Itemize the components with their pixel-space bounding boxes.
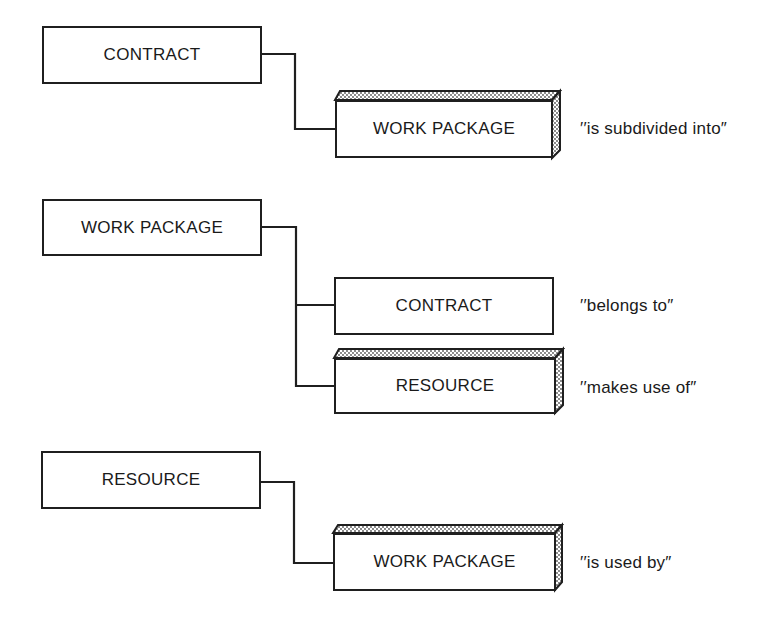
connector-contract-to-workpackage (262, 54, 335, 129)
entity-label: WORK PACKAGE (81, 218, 223, 238)
entity-box-work-package-child-2: WORK PACKAGE (333, 533, 556, 591)
relation-label-subdivided: ′′is subdivided into″ (580, 119, 727, 139)
entity-box-work-package-child: WORK PACKAGE (335, 100, 553, 158)
entity-label: CONTRACT (396, 296, 493, 316)
relation-label-makes-use-of: ′′makes use of″ (580, 378, 697, 398)
entity-label: RESOURCE (396, 376, 495, 396)
entity-label: CONTRACT (104, 45, 201, 65)
entity-box-work-package: WORK PACKAGE (42, 199, 262, 256)
relation-label-belongs-to: ′′belongs to″ (580, 296, 673, 316)
connector-workpackage-trunk (261, 227, 334, 386)
entity-relationship-diagram: CONTRACT WORK PACKAGE ′′is subdivided in… (0, 0, 782, 629)
entity-box-resource: RESOURCE (41, 451, 261, 509)
entity-label: WORK PACKAGE (373, 119, 515, 139)
entity-label: RESOURCE (102, 470, 201, 490)
entity-box-contract-child: CONTRACT (334, 277, 554, 335)
relation-label-is-used-by: ′′is used by″ (580, 553, 672, 573)
entity-box-contract: CONTRACT (42, 26, 262, 84)
entity-label: WORK PACKAGE (373, 552, 515, 572)
entity-box-resource-child: RESOURCE (334, 358, 556, 414)
connector-resource-to-workpackage (260, 482, 334, 563)
